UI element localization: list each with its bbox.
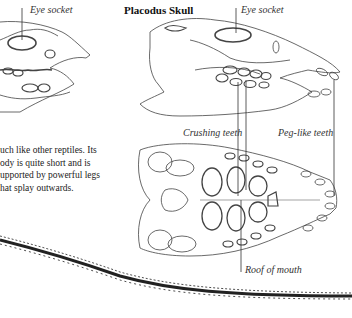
label-peg-like-teeth: Peg-like teeth <box>278 127 333 138</box>
body-line: ody is quite short and is <box>0 157 100 170</box>
label-crushing-teeth: Crushing teeth <box>183 127 242 138</box>
figure-title: Placodus Skull <box>124 4 193 16</box>
label-eye-socket-right: Eye socket <box>241 4 283 15</box>
label-roof-of-mouth: Roof of mouth <box>245 264 302 275</box>
body-line: uch like other reptiles. Its <box>0 144 100 157</box>
body-line: hat splay outwards. <box>0 182 100 195</box>
right-skull-side-view <box>140 19 340 117</box>
description-paragraph: uch like other reptiles. Its ody is quit… <box>0 144 100 194</box>
label-eye-socket-left: Eye socket <box>30 4 72 15</box>
left-skull-side-view <box>0 21 90 112</box>
body-line: upported by powerful legs <box>0 169 100 182</box>
